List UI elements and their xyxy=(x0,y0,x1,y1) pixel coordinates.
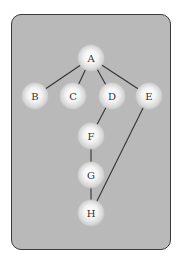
node-label: B xyxy=(31,91,38,102)
node-a: A xyxy=(78,45,105,72)
node-b: B xyxy=(22,83,49,110)
node-label: C xyxy=(69,91,77,102)
node-d: D xyxy=(99,83,126,110)
node-label: H xyxy=(87,208,96,219)
node-g: G xyxy=(78,162,105,189)
graph-diagram: ABCDEFGH xyxy=(0,0,180,262)
node-f: F xyxy=(78,123,105,150)
node-label: G xyxy=(87,170,95,181)
node-label: F xyxy=(88,131,95,142)
node-c: C xyxy=(60,83,87,110)
node-label: D xyxy=(108,91,116,102)
node-label: E xyxy=(145,91,152,102)
nodes-group: ABCDEFGH xyxy=(22,45,163,227)
node-label: A xyxy=(86,53,95,64)
edge-e-h xyxy=(91,96,149,213)
node-h: H xyxy=(78,200,105,227)
node-e: E xyxy=(136,83,163,110)
